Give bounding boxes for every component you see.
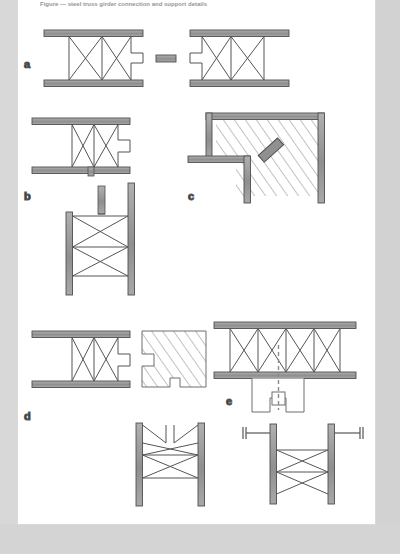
truss-end-seat xyxy=(118,354,130,366)
truss-bottom-chord xyxy=(214,372,356,379)
panel-a-group: a xyxy=(24,30,289,87)
panel-label-e: e xyxy=(226,395,232,407)
figure-page: Figure — steel truss girder connection a… xyxy=(0,0,400,554)
corner-ledge xyxy=(188,156,250,163)
truss-end-seat xyxy=(118,140,130,152)
truss-diagonal xyxy=(143,425,167,443)
panel-b-group: b xyxy=(24,118,135,295)
vertical-stub-bar xyxy=(98,186,105,214)
panel-label-b: b xyxy=(24,190,31,202)
anchor-head-right xyxy=(360,427,363,439)
column-left xyxy=(66,212,73,295)
figure-drawing: a xyxy=(18,0,375,524)
post-left xyxy=(270,424,277,504)
panel-b-truss-horizontal xyxy=(32,118,130,176)
post-right xyxy=(198,423,205,506)
panel-e-truss-multipanel xyxy=(214,322,356,379)
page-left-margin xyxy=(0,0,18,554)
corner-angle-left xyxy=(206,113,212,161)
truss-bottom-chord xyxy=(32,167,130,174)
panel-a-truss-right xyxy=(190,30,289,87)
panel-c-group: c xyxy=(188,113,325,203)
bearing-stub xyxy=(88,167,94,176)
panel-d-truss-horizontal xyxy=(32,331,130,388)
page-bottom-margin xyxy=(0,524,400,554)
panel-label-a: a xyxy=(24,58,31,70)
anchor-head-left xyxy=(243,427,246,439)
truss-bottom-chord xyxy=(32,381,130,388)
truss-top-chord xyxy=(44,30,143,37)
panel-e-group: e xyxy=(214,322,363,504)
panel-label-c: c xyxy=(188,190,194,202)
splice-plate xyxy=(156,55,176,62)
panel-a-truss-left xyxy=(44,30,143,87)
corner-angle-top xyxy=(206,113,324,120)
panel-b-truss-vertical xyxy=(66,183,135,295)
truss-top-chord xyxy=(190,30,289,37)
hatched-notched-block xyxy=(142,331,206,387)
corner-leg-lower xyxy=(244,156,251,203)
truss-bottom-chord xyxy=(190,80,289,87)
truss-top-chord xyxy=(32,118,130,125)
corner-angle-right xyxy=(318,113,325,203)
panel-e-truss-post-anchored xyxy=(243,424,363,504)
truss-top-chord xyxy=(214,322,356,329)
page-right-margin xyxy=(375,0,400,554)
post-left xyxy=(136,423,143,506)
column-right xyxy=(128,183,135,295)
truss-top-chord xyxy=(32,331,130,338)
truss-bottom-chord xyxy=(44,80,143,87)
panel-label-d: d xyxy=(24,410,31,422)
panel-d-truss-post xyxy=(136,423,205,506)
post-right xyxy=(328,424,335,504)
panel-d-group: d xyxy=(24,331,206,506)
truss-end-seat xyxy=(190,53,202,63)
truss-end-seat xyxy=(131,53,143,63)
truss-diagonal xyxy=(174,425,198,443)
